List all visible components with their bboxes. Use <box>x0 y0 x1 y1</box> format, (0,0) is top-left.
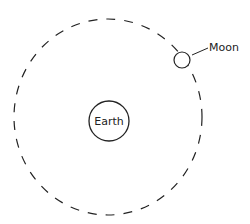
earth-moon-orbit-diagram: Earth Moon <box>0 0 250 224</box>
moon: Moon <box>174 41 239 68</box>
moon-circle <box>174 52 190 68</box>
moon-label: Moon <box>209 41 239 54</box>
earth-label: Earth <box>94 115 124 128</box>
moon-label-leader-line <box>192 48 208 55</box>
earth: Earth <box>89 101 129 141</box>
